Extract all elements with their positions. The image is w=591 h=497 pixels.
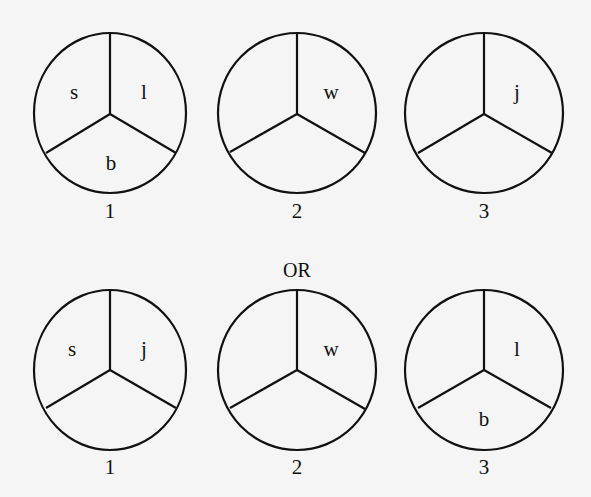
spoke-right: [110, 114, 176, 153]
sector-bottom-label: b: [479, 407, 490, 431]
spoke-left: [46, 370, 110, 408]
spoke-left: [418, 370, 484, 408]
sector-right-label: l: [514, 337, 520, 361]
circle-1: s l b 1: [34, 33, 186, 223]
circle-2: w 2: [218, 290, 376, 479]
spoke-right: [297, 114, 365, 153]
diagram-canvas: s l b 1 w 2 j 3 OR: [0, 0, 591, 497]
circle-number: 1: [105, 455, 116, 479]
sector-bottom-label: b: [106, 151, 117, 175]
sector-right-label: j: [513, 80, 520, 104]
circle-number: 2: [292, 199, 303, 223]
circle-number: 3: [479, 455, 490, 479]
spoke-left: [230, 370, 297, 408]
sector-right-label: w: [323, 337, 339, 361]
spoke-right: [297, 370, 365, 409]
spoke-left: [418, 114, 484, 153]
circle-number: 3: [479, 199, 490, 223]
circle-3: j 3: [405, 33, 563, 223]
circle-number: 1: [105, 199, 116, 223]
spoke-right: [484, 370, 551, 408]
circle-2: w 2: [218, 33, 376, 223]
spoke-right: [484, 114, 552, 153]
spoke-right: [110, 370, 176, 408]
sector-right-label: w: [323, 80, 339, 104]
circle-number: 2: [292, 455, 303, 479]
circle-3: l b 3: [405, 290, 563, 479]
spoke-left: [230, 114, 297, 152]
arrangement-1: s l b 1 w 2 j 3: [34, 33, 563, 223]
sector-right-label: l: [141, 80, 147, 104]
arrangement-2: s j 1 w 2 l b 3: [34, 290, 563, 479]
sector-right-label: j: [140, 337, 147, 361]
circle-1: s j 1: [34, 290, 186, 479]
sector-left-label: s: [68, 337, 76, 361]
or-separator: OR: [283, 259, 311, 281]
spoke-left: [46, 114, 110, 153]
sector-left-label: s: [70, 80, 78, 104]
